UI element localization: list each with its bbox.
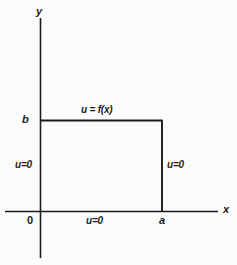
boundary-condition-left: u=0 bbox=[15, 160, 32, 170]
math-figure: y x b 0 a u = f(x) u=0 u=0 u=0 bbox=[0, 0, 237, 265]
x-axis-label: x bbox=[223, 204, 229, 215]
x-tick-label-a: a bbox=[159, 215, 165, 226]
boundary-condition-bottom: u=0 bbox=[86, 216, 103, 226]
boundary-condition-top: u = f(x) bbox=[81, 105, 112, 115]
boundary-condition-right: u=0 bbox=[167, 160, 184, 170]
y-axis-label: y bbox=[36, 6, 42, 17]
y-tick-label-b: b bbox=[22, 114, 29, 125]
figure-canvas bbox=[0, 0, 237, 265]
origin-label: 0 bbox=[27, 215, 33, 226]
